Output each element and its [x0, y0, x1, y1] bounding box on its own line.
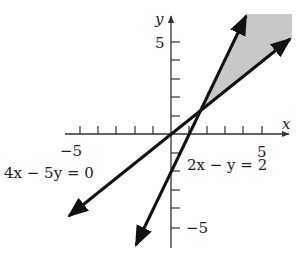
- equation-label-4x-5y: 4x − 5y = 0: [4, 164, 94, 182]
- shaded-region: [202, 14, 292, 110]
- y-tick-label-neg5: −5: [186, 219, 208, 237]
- y-axis-label: y: [154, 10, 164, 28]
- x-tick-label-neg5: −5: [60, 142, 82, 160]
- y-tick-label-5: 5: [155, 34, 165, 52]
- inequality-graph: y x 5 −5 −5 5 4x − 5y = 0 2x − y = 2: [0, 0, 296, 253]
- x-axis-label: x: [282, 115, 291, 133]
- equation-label-2x-y: 2x − y = 2: [187, 156, 267, 174]
